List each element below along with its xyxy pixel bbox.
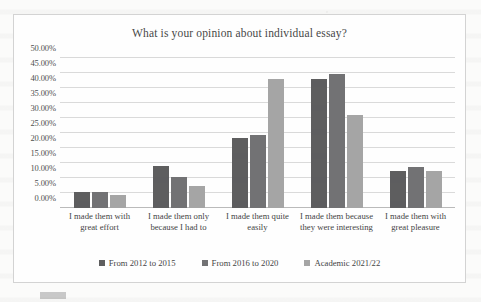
bar[interactable] bbox=[268, 79, 284, 208]
bar[interactable] bbox=[74, 192, 90, 208]
chart-title: What is your opinion about individual es… bbox=[14, 27, 465, 39]
x-axis-category-label: I made them with great pleasure bbox=[376, 211, 455, 233]
y-axis-tick-label: 35.00% bbox=[30, 88, 56, 98]
bar[interactable] bbox=[232, 138, 248, 209]
y-axis-tick-label: 5.00% bbox=[35, 178, 56, 188]
bar[interactable] bbox=[426, 171, 442, 208]
bar[interactable] bbox=[189, 186, 205, 208]
legend-swatch-icon bbox=[202, 260, 208, 266]
x-axis-category-label: I made them only because I had to bbox=[139, 211, 218, 233]
bar[interactable] bbox=[110, 195, 126, 208]
x-axis-category-label: I made them quite easily bbox=[218, 211, 297, 233]
legend-label: From 2016 to 2020 bbox=[212, 258, 279, 268]
y-axis-tick-label: 20.00% bbox=[30, 133, 56, 143]
y-axis-tick-label: 50.00% bbox=[30, 43, 56, 53]
legend-item[interactable]: From 2012 to 2015 bbox=[99, 258, 176, 268]
bar[interactable] bbox=[171, 177, 187, 208]
y-axis-tick-label: 45.00% bbox=[30, 58, 56, 68]
legend-label: From 2012 to 2015 bbox=[109, 258, 176, 268]
bar[interactable] bbox=[390, 171, 406, 208]
x-axis-category-label: I made them because they were interestin… bbox=[297, 211, 376, 233]
y-axis-tick-label: 40.00% bbox=[30, 73, 56, 83]
y-axis-tick-label: 15.00% bbox=[30, 148, 56, 158]
legend-item[interactable]: From 2016 to 2020 bbox=[202, 258, 279, 268]
bar[interactable] bbox=[329, 74, 345, 208]
bars-layer bbox=[60, 58, 455, 208]
bar[interactable] bbox=[311, 79, 327, 208]
bar[interactable] bbox=[347, 115, 363, 208]
bar-group bbox=[218, 58, 297, 208]
legend-swatch-icon bbox=[99, 260, 105, 266]
bar[interactable] bbox=[153, 166, 169, 208]
legend-swatch-icon bbox=[304, 260, 310, 266]
chart-legend: From 2012 to 2015From 2016 to 2020Academ… bbox=[14, 258, 465, 268]
legend-label: Academic 2021/22 bbox=[314, 258, 380, 268]
bar[interactable] bbox=[408, 167, 424, 208]
bar-group bbox=[376, 58, 455, 208]
y-axis-tick-label: 30.00% bbox=[30, 103, 56, 113]
bar[interactable] bbox=[250, 135, 266, 208]
bar-group bbox=[60, 58, 139, 208]
bar[interactable] bbox=[92, 192, 108, 208]
x-axis-category-label: I made them with great effort bbox=[60, 211, 139, 233]
plot-area: 0.00%5.00%10.00%15.00%20.00%25.00%30.00%… bbox=[60, 58, 455, 208]
y-axis-tick-label: 0.00% bbox=[35, 193, 56, 203]
y-axis-tick-label: 25.00% bbox=[30, 118, 56, 128]
bar-group bbox=[139, 58, 218, 208]
legend-item[interactable]: Academic 2021/22 bbox=[304, 258, 380, 268]
x-axis-category-labels: I made them with great effortI made them… bbox=[60, 211, 455, 233]
scan-artifact bbox=[40, 292, 66, 299]
chart-container: What is your opinion about individual es… bbox=[13, 14, 466, 283]
bar-group bbox=[297, 58, 376, 208]
y-axis-tick-label: 10.00% bbox=[30, 163, 56, 173]
